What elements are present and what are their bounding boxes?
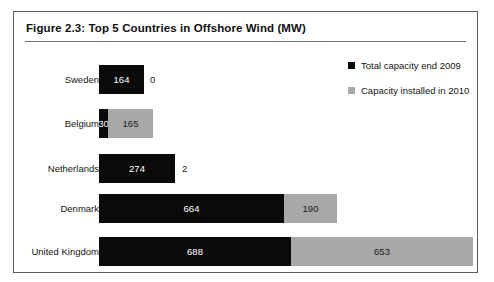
bar-segment-total-capacity-2009[interactable]: 30 (99, 109, 108, 138)
title-divider (25, 41, 466, 42)
category-label-netherlands: Netherlands (48, 154, 99, 183)
legend-swatch-dark (348, 62, 355, 69)
bar-track: 164 (99, 65, 144, 94)
bar-row: Netherlands2742 (14, 154, 477, 183)
bar-row: Belgium30165 (14, 109, 477, 138)
bar-value-label: 688 (187, 247, 203, 257)
bar-value-label: 30 (98, 119, 109, 129)
figure-container: Figure 2.3: Top 5 Countries in Offshore … (13, 11, 478, 273)
bar-segment-total-capacity-2009[interactable]: 688 (99, 237, 291, 266)
bar-value-label-outside: 0 (150, 65, 155, 94)
category-label-denmark: Denmark (60, 194, 99, 223)
figure-title: Figure 2.3: Top 5 Countries in Offshore … (26, 22, 306, 34)
legend-item[interactable]: Total capacity end 2009 (348, 60, 478, 70)
bar-segment-total-capacity-2009[interactable]: 274 (99, 154, 175, 183)
legend-label: Total capacity end 2009 (361, 60, 461, 71)
chart-legend: Total capacity end 2009Capacity installe… (348, 60, 478, 110)
category-label-belgium: Belgium (65, 109, 99, 138)
bar-value-label-outside: 2 (182, 154, 187, 183)
bar-value-label: 164 (114, 75, 130, 85)
bar-row: United Kingdom688653 (14, 237, 477, 266)
bar-track: 30165 (99, 109, 153, 138)
category-label-sweden: Sweden (65, 65, 99, 94)
bar-track: 688653 (99, 237, 473, 266)
bar-value-label: 664 (184, 204, 200, 214)
legend-item[interactable]: Capacity installed in 2010 (348, 85, 478, 95)
bar-row: Denmark664190 (14, 194, 477, 223)
bar-value-label: 190 (303, 204, 319, 214)
bar-segment-total-capacity-2009[interactable]: 164 (99, 65, 144, 94)
bar-value-label: 653 (374, 247, 390, 257)
bar-segment-capacity-installed-2010[interactable]: 190 (284, 194, 337, 223)
legend-label: Capacity installed in 2010 (361, 85, 469, 96)
bar-segment-total-capacity-2009[interactable]: 664 (99, 194, 284, 223)
bar-track: 664190 (99, 194, 337, 223)
category-label-united-kingdom: United Kingdom (31, 237, 99, 266)
bar-segment-capacity-installed-2010[interactable]: 165 (108, 109, 153, 138)
bar-segment-capacity-installed-2010[interactable]: 653 (291, 237, 473, 266)
legend-swatch-light (348, 87, 355, 94)
bar-value-label: 165 (123, 119, 139, 129)
bar-value-label: 274 (129, 164, 145, 174)
bar-track: 274 (99, 154, 175, 183)
